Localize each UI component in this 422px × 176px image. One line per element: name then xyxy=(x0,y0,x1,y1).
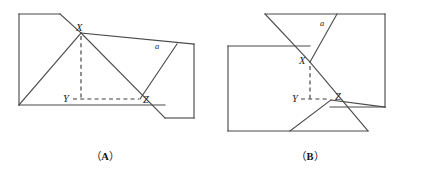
figure-b-caption-open: （ xyxy=(296,151,306,162)
figure-b-label-z: Z xyxy=(335,92,341,103)
figure-b-canvas xyxy=(0,0,422,176)
figure-b-caption-letter: B xyxy=(306,151,313,162)
figure-b-shape xyxy=(228,14,385,131)
diagram-page: X Y Z a （A） xyxy=(0,0,422,176)
figure-b-construction-lines xyxy=(301,66,329,99)
figure-b-caption-close: ） xyxy=(314,151,324,162)
figure-b-caption: （B） xyxy=(275,152,345,163)
figure-b-label-y: Y xyxy=(292,94,298,105)
figure-b-label-x: X xyxy=(299,56,305,67)
figure-b-label-alpha: a xyxy=(320,19,324,28)
figure-b-crease-line xyxy=(290,100,331,131)
